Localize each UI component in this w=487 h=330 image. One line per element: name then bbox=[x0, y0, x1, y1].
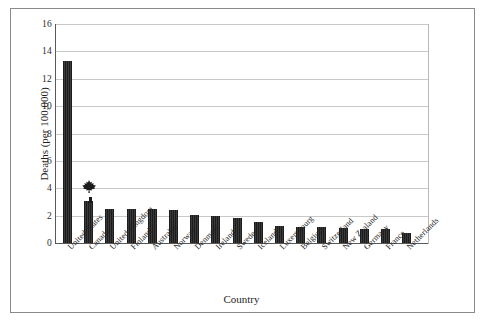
chart-figure: 1614121086420 Deaths (per 100,000) Unite… bbox=[0, 0, 487, 330]
y-axis-tick-label: 16 bbox=[12, 19, 52, 29]
maple-leaf-icon bbox=[80, 179, 102, 205]
plot-right-edge bbox=[428, 24, 429, 244]
y-axis-title: Deaths (per 100,000) bbox=[14, 40, 36, 230]
y-axis-title-text: Deaths (per 100,000) bbox=[38, 34, 50, 234]
x-axis-title: Country bbox=[55, 293, 428, 305]
bar bbox=[63, 61, 72, 243]
bar-series bbox=[55, 24, 428, 243]
y-axis-tick-label: 0 bbox=[12, 238, 52, 248]
